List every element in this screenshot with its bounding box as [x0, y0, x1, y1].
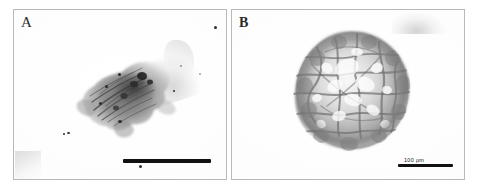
debris-speck: [63, 133, 65, 135]
panel-b: B: [231, 9, 465, 180]
panel-a-background-smudge: [15, 151, 41, 180]
debris-speck: [180, 65, 182, 67]
debris-speck: [67, 132, 70, 134]
debris-speck: [173, 90, 175, 92]
panel-a-scalebar: [123, 159, 211, 163]
debris-speck: [214, 26, 217, 29]
debris-speck: [139, 165, 142, 168]
debris-speck: [118, 120, 122, 123]
debris-speck: [118, 73, 121, 76]
panel-b-scalebar-label: 100 μm: [404, 157, 424, 163]
panel-a-label: A: [21, 15, 32, 30]
panel-a-cell-aggregate: [72, 48, 184, 140]
debris-speck: [99, 102, 102, 105]
debris-speck: [105, 85, 108, 88]
panel-a: A: [13, 9, 227, 180]
panel-b-spheroid: [287, 28, 415, 154]
panel-b-label: B: [239, 16, 249, 30]
debris-speck: [199, 73, 201, 75]
panel-b-scalebar: [398, 164, 453, 167]
micrograph-figure: A: [0, 0, 478, 195]
